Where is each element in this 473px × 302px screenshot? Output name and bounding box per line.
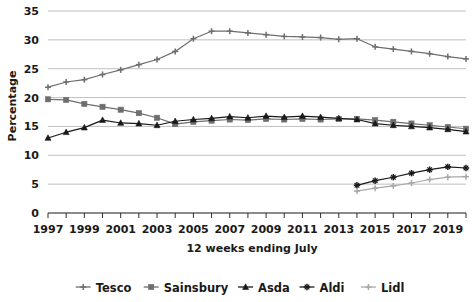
data-point-lidl (445, 174, 451, 180)
marker-square (64, 97, 69, 102)
legend-item-asda[interactable]: Asda (238, 281, 290, 295)
supermarket-market-share-chart: 0510152025303519971999200120032005200720… (0, 0, 473, 302)
data-point-tesco (209, 28, 215, 34)
data-point-sainsbury (118, 107, 123, 112)
marker-triangle (100, 117, 106, 123)
y-tick-label: 5 (31, 178, 39, 191)
x-tick-label: 1997 (33, 223, 64, 236)
data-point-aldi (354, 182, 360, 188)
y-axis-title: Percentage (6, 71, 19, 142)
legend-item-sainsbury[interactable]: Sainsbury (144, 281, 229, 295)
y-tick-label: 25 (24, 63, 39, 76)
x-tick-label: 2015 (360, 223, 391, 236)
data-point-tesco (81, 77, 87, 83)
x-tick-label: 2017 (396, 223, 427, 236)
legend-label-tesco: Tesco (96, 281, 132, 295)
legend-item-aldi[interactable]: Aldi (300, 281, 345, 295)
marker-square (82, 101, 87, 106)
data-point-aldi (408, 170, 414, 176)
y-tick-label: 35 (24, 5, 39, 18)
data-point-tesco (263, 32, 269, 38)
legend-marker-tesco (80, 284, 86, 290)
marker-square (136, 111, 141, 116)
data-point-tesco (136, 62, 142, 68)
data-point-tesco (100, 71, 106, 77)
x-tick-label: 2003 (142, 223, 173, 236)
data-point-tesco (445, 54, 451, 60)
legend-item-tesco[interactable]: Tesco (76, 281, 132, 295)
series-line-sainsbury (48, 99, 466, 128)
data-point-tesco (390, 46, 396, 52)
data-point-lidl (463, 174, 469, 180)
legend-marker-sainsbury (149, 284, 154, 289)
legend-item-lidl[interactable]: Lidl (361, 281, 404, 295)
legend-label-aldi: Aldi (320, 281, 345, 295)
y-tick-label: 30 (24, 34, 40, 47)
data-point-tesco (408, 48, 414, 54)
data-point-tesco (372, 44, 378, 50)
data-point-lidl (408, 180, 414, 186)
data-point-tesco (227, 28, 233, 34)
x-tick-label: 2007 (214, 223, 245, 236)
x-tick-label: 2011 (287, 223, 318, 236)
marker-square (118, 107, 123, 112)
y-tick-label: 20 (24, 92, 40, 105)
x-tick-label: 2005 (178, 223, 209, 236)
x-tick-label: 2013 (323, 223, 354, 236)
marker-square (149, 284, 154, 289)
y-tick-label: 10 (24, 149, 40, 162)
data-point-tesco (245, 30, 251, 36)
x-ticks (48, 213, 466, 218)
y-tick-label: 15 (24, 120, 39, 133)
marker-square (154, 115, 159, 120)
data-point-aldi (445, 164, 451, 170)
data-point-tesco (63, 79, 69, 85)
x-tick-label: 2001 (105, 223, 136, 236)
data-point-sainsbury (136, 111, 141, 116)
data-point-sainsbury (82, 101, 87, 106)
x-tick-label: 1999 (69, 223, 100, 236)
data-point-tesco (336, 36, 342, 42)
legend-label-asda: Asda (258, 281, 290, 295)
data-point-tesco (281, 33, 287, 39)
chart-canvas: 0510152025303519971999200120032005200720… (0, 0, 473, 302)
data-point-tesco (427, 51, 433, 57)
data-point-tesco (154, 56, 160, 62)
x-axis-title: 12 weeks ending July (186, 242, 317, 255)
data-point-tesco (354, 36, 360, 42)
legend-marker-lidl (365, 284, 371, 290)
legend-label-lidl: Lidl (381, 281, 404, 295)
data-point-asda (100, 117, 106, 123)
data-point-aldi (390, 174, 396, 180)
legend-label-sainsbury: Sainsbury (164, 281, 229, 295)
data-point-sainsbury (154, 115, 159, 120)
data-point-tesco (118, 67, 124, 73)
chart-legend: TescoSainsburyAsdaAldiLidl (76, 281, 405, 295)
data-point-aldi (372, 177, 378, 183)
y-gridlines (48, 11, 466, 184)
data-point-tesco (299, 34, 305, 40)
x-tick-label: 2019 (433, 223, 464, 236)
marker-square (45, 97, 50, 102)
data-point-tesco (463, 56, 469, 62)
data-point-sainsbury (64, 97, 69, 102)
series-tesco (45, 28, 469, 90)
data-point-aldi (426, 167, 432, 173)
data-point-tesco (45, 84, 51, 90)
data-point-sainsbury (45, 97, 50, 102)
data-point-lidl (427, 177, 433, 183)
legend-marker-aldi (304, 284, 310, 290)
y-tick-label: 0 (31, 207, 39, 220)
marker-square (100, 104, 105, 109)
data-point-sainsbury (100, 104, 105, 109)
data-point-aldi (463, 165, 469, 171)
data-point-lidl (372, 185, 378, 191)
x-tick-label: 2009 (251, 223, 282, 236)
data-point-lidl (354, 188, 360, 194)
